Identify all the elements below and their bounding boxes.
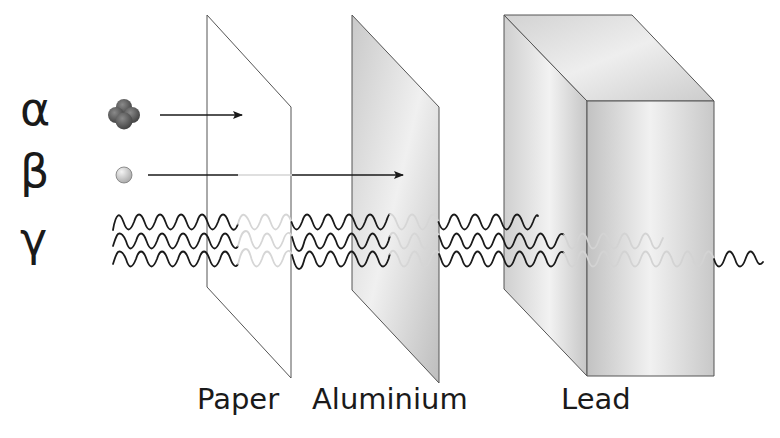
- gamma-wave-layer: [0, 0, 780, 438]
- gamma-wave-1: [113, 214, 538, 230]
- aluminium-label: Aluminium: [312, 384, 468, 414]
- gamma-wave-3: [113, 249, 763, 269]
- beta-symbol: β: [20, 148, 49, 194]
- paper-label: Paper: [197, 384, 279, 414]
- alpha-symbol: α: [20, 86, 50, 132]
- lead-label: Lead: [561, 384, 631, 414]
- gamma-symbol: γ: [20, 216, 47, 262]
- gamma-wave-2: [113, 231, 663, 251]
